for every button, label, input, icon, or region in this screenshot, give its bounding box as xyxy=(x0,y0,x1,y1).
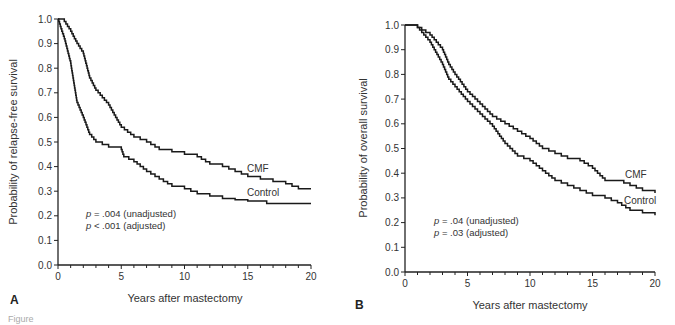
figure: 0.00.10.20.30.40.50.60.70.80.91.00510152… xyxy=(0,0,675,325)
y-tick-label: 0.3 xyxy=(38,186,52,197)
panel-b-curves xyxy=(405,25,655,215)
panel-a-curves xyxy=(58,19,311,204)
x-tick-label: 15 xyxy=(587,278,599,289)
panel-a-pvalue-unadjusted: p = .004 (unadjusted) xyxy=(85,208,176,219)
y-tick-label: 0.0 xyxy=(38,260,52,271)
y-tick-label: 0.7 xyxy=(385,94,399,105)
x-tick-label: 20 xyxy=(305,271,317,282)
x-tick-label: 0 xyxy=(402,278,408,289)
panel-a-axes: 0.00.10.20.30.40.50.60.70.80.91.00510152… xyxy=(38,14,317,283)
y-tick-label: 0.8 xyxy=(38,63,52,74)
y-tick-label: 0.2 xyxy=(385,217,399,228)
y-tick-label: 1.0 xyxy=(38,14,52,25)
y-tick-label: 0.9 xyxy=(38,38,52,49)
panel-a-letter: A xyxy=(10,293,19,307)
curve-cmf xyxy=(58,19,311,189)
y-tick-label: 0.6 xyxy=(385,118,399,129)
y-tick-label: 0.0 xyxy=(385,267,399,278)
panel-b-axes: 0.00.10.20.30.40.50.60.70.80.91.00510152… xyxy=(385,20,661,290)
panel-b-cmf-label: CMF xyxy=(625,169,647,180)
y-tick-label: 0.5 xyxy=(38,137,52,148)
x-tick-label: 10 xyxy=(179,271,191,282)
panel-a-x-axis-title: Years after mastectomy xyxy=(127,292,243,304)
panel-a-control-label: Control xyxy=(247,187,279,198)
x-tick-label: 15 xyxy=(242,271,254,282)
x-tick-label: 0 xyxy=(55,271,61,282)
y-tick-label: 0.4 xyxy=(38,161,52,172)
y-tick-label: 0.2 xyxy=(38,210,52,221)
y-tick-label: 0.8 xyxy=(385,69,399,80)
y-tick-label: 0.9 xyxy=(385,44,399,55)
curve-control xyxy=(58,19,311,204)
panel-b-overall-survival: 0.00.10.20.30.40.50.60.70.80.91.00510152… xyxy=(355,20,661,313)
panel-a-pvalue-adjusted: p < .001 (adjusted) xyxy=(85,220,166,231)
x-tick-label: 5 xyxy=(118,271,124,282)
panel-b-letter: B xyxy=(355,298,364,312)
panel-a-cmf-label: CMF xyxy=(247,163,269,174)
curve-control xyxy=(405,25,655,215)
panel-a-relapse-free-survival: 0.00.10.20.30.40.50.60.70.80.91.00510152… xyxy=(7,14,317,308)
curve-cmf xyxy=(405,25,655,193)
y-tick-label: 0.7 xyxy=(38,87,52,98)
x-tick-label: 20 xyxy=(649,278,661,289)
y-tick-label: 0.5 xyxy=(385,143,399,154)
y-tick-label: 0.1 xyxy=(385,242,399,253)
y-tick-label: 0.6 xyxy=(38,112,52,123)
panel-b-pvalue-adjusted: p = .03 (adjusted) xyxy=(433,227,508,238)
caption-fragment: Figure xyxy=(8,314,34,324)
y-tick-label: 0.3 xyxy=(385,192,399,203)
x-tick-label: 5 xyxy=(465,278,471,289)
panel-b-x-axis-title: Years after mastectomy xyxy=(472,299,588,311)
panel-b-control-label: Control xyxy=(624,195,656,206)
panel-b-pvalue-unadjusted: p = .04 (unadjusted) xyxy=(433,215,519,226)
panel-a-y-axis-title: Probability of relapse-free survival xyxy=(7,59,19,225)
y-tick-label: 0.1 xyxy=(38,235,52,246)
x-tick-label: 10 xyxy=(524,278,536,289)
y-tick-label: 0.4 xyxy=(385,168,399,179)
panel-b-y-axis-title: Probability of overall survival xyxy=(357,78,369,217)
y-tick-label: 1.0 xyxy=(385,20,399,31)
